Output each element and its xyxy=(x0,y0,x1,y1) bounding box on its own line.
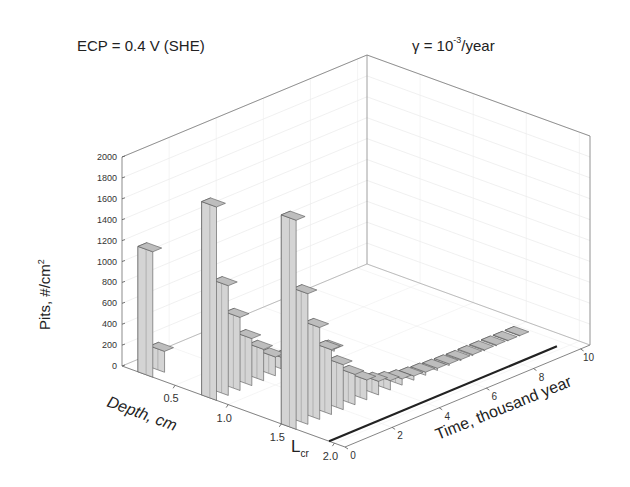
time-tick xyxy=(581,349,584,351)
z-tick-label: 400 xyxy=(102,319,117,329)
gridline xyxy=(367,76,590,157)
time-tick xyxy=(345,447,348,449)
bar-face-front xyxy=(202,202,217,401)
gridline xyxy=(122,76,367,178)
gridline xyxy=(367,222,590,303)
gridline xyxy=(122,180,367,282)
gridline xyxy=(367,201,590,282)
z-tick xyxy=(122,281,125,282)
frame-edge xyxy=(122,55,367,157)
gridline xyxy=(367,180,590,261)
z-tick xyxy=(122,198,125,199)
time-tick-label: 2 xyxy=(397,430,403,441)
gridline xyxy=(367,160,590,241)
gridline xyxy=(367,139,590,220)
depth-tick xyxy=(279,424,281,427)
z-tick xyxy=(122,302,125,303)
bar xyxy=(150,342,174,372)
z-tick xyxy=(122,219,125,220)
time-axis-label: Time, thousand year xyxy=(433,372,575,442)
gridline xyxy=(367,118,590,199)
z-axis-label: Pits, #/cm2 xyxy=(36,259,53,330)
z-tick-label: 2000 xyxy=(97,152,117,162)
z-tick xyxy=(122,323,125,324)
time-tick xyxy=(486,388,489,390)
gridline xyxy=(122,118,367,220)
time-tick-label: 10 xyxy=(583,352,595,363)
gridline xyxy=(122,139,367,241)
gridline xyxy=(122,160,367,262)
depth-tick xyxy=(173,385,175,388)
gridline xyxy=(122,201,367,303)
depth-tick-label: 0.5 xyxy=(163,392,178,404)
z-tick xyxy=(122,240,125,241)
z-tick-label: 1800 xyxy=(97,173,117,183)
z-axis-label-exp: 2 xyxy=(36,259,46,264)
z-tick xyxy=(122,156,125,157)
z-tick-label: 800 xyxy=(102,277,117,287)
z-tick-label: 1000 xyxy=(97,257,117,267)
z-tick-label: 1400 xyxy=(97,215,117,225)
gridline xyxy=(367,97,590,178)
depth-tick xyxy=(332,443,334,446)
z-tick-label: 200 xyxy=(102,340,117,350)
lcr-subscript: cr xyxy=(300,448,309,459)
z-tick xyxy=(122,365,125,366)
z-tick-label: 1600 xyxy=(97,194,117,204)
bar3d-chart: 02004006008001000120014001600180020000.5… xyxy=(0,0,630,487)
z-tick xyxy=(122,177,125,178)
time-tick xyxy=(533,369,536,371)
bar-face-front xyxy=(138,246,153,377)
bar-face-front xyxy=(281,215,296,429)
lcr-label: Lcr xyxy=(291,437,309,459)
time-tick xyxy=(392,427,395,429)
frame-edge xyxy=(367,55,590,136)
z-tick-label: 1200 xyxy=(97,236,117,246)
depth-tick-label: 1.0 xyxy=(217,412,232,424)
time-tick-label: 0 xyxy=(350,450,356,461)
depth-tick xyxy=(226,405,228,408)
z-tick-label: 600 xyxy=(102,298,117,308)
depth-tick-label: 2.0 xyxy=(323,450,338,462)
gridline xyxy=(122,97,367,199)
z-tick xyxy=(122,261,125,262)
gridline xyxy=(122,222,367,324)
z-tick xyxy=(122,344,125,345)
depth-tick-label: 1.5 xyxy=(270,431,285,443)
time-tick-label: 8 xyxy=(539,372,545,383)
z-tick-label: 0 xyxy=(112,361,117,371)
time-tick xyxy=(439,408,442,410)
